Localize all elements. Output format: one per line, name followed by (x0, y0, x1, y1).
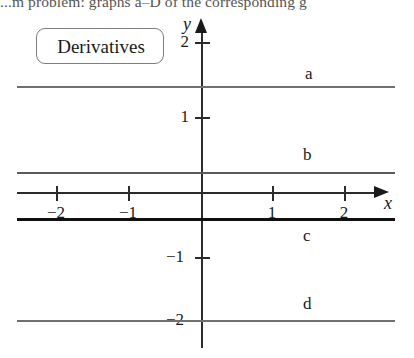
curve-label-d: d (303, 294, 312, 314)
curve-b-line (17, 172, 395, 174)
y-tick-neg1 (195, 257, 210, 259)
derivatives-legend-label: Derivatives (37, 29, 165, 65)
caption-strip: ...m problem: graphs a–D of the correspo… (0, 0, 414, 13)
x-tick-2 (344, 186, 346, 201)
caption-text: ...m problem: graphs a–D of the correspo… (0, 0, 414, 13)
y-tick-2 (195, 42, 210, 44)
x-tick-1 (272, 186, 274, 201)
curve-label-a: a (305, 64, 313, 84)
y-tick-1 (195, 117, 210, 119)
curve-a-line (17, 86, 395, 88)
x-tick-neg2 (56, 186, 58, 201)
y-ticklabel-2: 2 (155, 32, 189, 52)
y-axis-line (201, 31, 203, 348)
y-ticklabel-1: 1 (155, 107, 189, 127)
figure-canvas: ...m problem: graphs a–D of the correspo… (0, 0, 414, 358)
derivatives-legend-box: Derivatives (36, 28, 164, 64)
curve-label-c: c (303, 226, 311, 246)
y-axis-arrow-icon (195, 18, 207, 33)
y-ticklabel-neg1: −1 (150, 247, 184, 267)
curve-c-line (17, 218, 395, 221)
x-tick-neg1 (128, 186, 130, 201)
x-axis-line (17, 192, 380, 194)
curve-d-line (17, 320, 395, 322)
x-axis-label: x (384, 193, 392, 214)
curve-label-b: b (303, 145, 312, 165)
